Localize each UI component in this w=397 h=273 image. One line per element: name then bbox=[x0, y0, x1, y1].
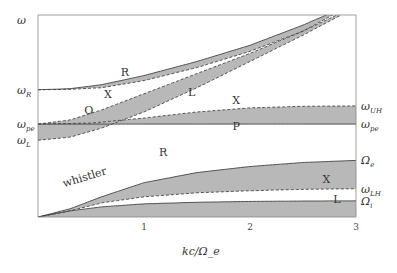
band-label-x: X bbox=[104, 88, 112, 101]
band-label-l: L bbox=[333, 193, 341, 206]
left-level-label-omega-r: ωR bbox=[17, 84, 32, 99]
band-label-l: L bbox=[188, 86, 196, 99]
right-level-label-omega-e: Ωe bbox=[360, 154, 374, 169]
right-level-label-omega-uh: ωUH bbox=[361, 100, 383, 115]
x-ticks: 123 bbox=[141, 222, 359, 232]
band-label-x: X bbox=[322, 173, 330, 186]
band-label-p: P bbox=[233, 120, 241, 133]
band-label-x: X bbox=[232, 94, 240, 107]
band-label-r: R bbox=[121, 66, 130, 79]
x-tick-label: 2 bbox=[247, 222, 253, 232]
x-tick-label: 1 bbox=[141, 222, 147, 232]
y-axis-label: ω bbox=[17, 14, 26, 27]
dispersion-chart: ωRωpeωLωUHωpeΩeωLHΩiRXOLXPRXLwhistler 12… bbox=[0, 0, 397, 273]
right-level-label-omega-pe: ωpe bbox=[361, 118, 379, 133]
x-tick-label: 3 bbox=[353, 222, 359, 232]
band-label-whistler: whistler bbox=[61, 164, 109, 190]
band-label-o: O bbox=[84, 104, 93, 117]
left-level-label-omega-pe: ωpe bbox=[17, 118, 35, 133]
left-level-label-omega-l: ωL bbox=[17, 134, 31, 149]
curve-r-upper bbox=[38, 15, 326, 90]
band-label-r: R bbox=[159, 146, 168, 159]
x-axis-label: kc/Ω_e bbox=[182, 245, 220, 258]
